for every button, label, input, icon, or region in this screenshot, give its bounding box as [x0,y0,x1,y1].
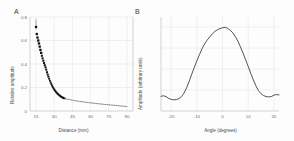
x-tick-label: -10 [185,114,209,119]
x-tick-label: 90 [115,114,139,119]
x-tick-label: 0 [211,114,235,119]
x-tick-label: 20 [262,114,286,119]
panel-b-plot [147,0,294,141]
panel-b: B Amplitude (arbitrary units) Angle (deg… [147,0,294,141]
panel-b-y-axis-title: Amplitude (arbitrary units) [138,57,143,110]
panel-b-letter: B [135,8,140,15]
y-tick-label: 0.2 [12,85,27,90]
x-tick-label: -20 [159,114,183,119]
y-tick-label: 0 [12,109,27,114]
y-tick-label: 0.6 [12,38,27,43]
x-tick-label: 10 [236,114,260,119]
panel-a-x-axis-title: Distance (mm) [0,128,147,133]
panel-a-plot [0,0,147,141]
panel-a: A Relative amplitude Distance (mm) 15304… [0,0,147,141]
panel-b-x-axis-title: Angle (degrees) [147,128,294,133]
figure-container: A Relative amplitude Distance (mm) 15304… [0,0,294,141]
y-tick-label: 0.8 [12,15,27,20]
y-tick-label: 0.4 [12,62,27,67]
